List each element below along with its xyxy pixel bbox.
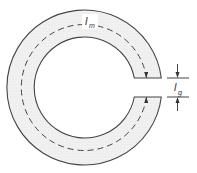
gap-arrow-up-icon xyxy=(176,97,180,103)
core-diagram: l m l g xyxy=(0,0,197,173)
lg-label-subscript: g xyxy=(178,89,182,97)
lm-label-subscript: m xyxy=(89,22,95,29)
lg-label: l xyxy=(174,81,177,93)
magnetic-core xyxy=(7,10,161,165)
gap-arrow-down-icon xyxy=(176,72,180,78)
